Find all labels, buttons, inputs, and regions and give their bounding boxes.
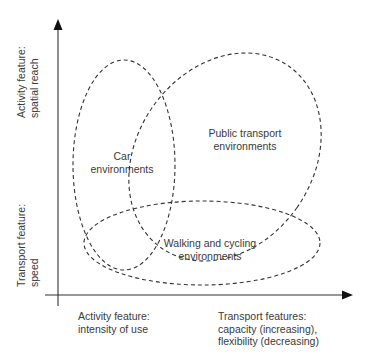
y-axis-upper-label-line1: Activity feature:	[15, 46, 28, 118]
y-axis-lower-label-line2: speed	[28, 204, 41, 287]
walking-cycling-label-line1: Walking and cycling	[150, 237, 270, 250]
walking-cycling-label: Walking and cycling environments	[150, 237, 270, 262]
walking-cycling-label-line2: environments	[150, 250, 270, 263]
x-axis-right-label: Transport features: capacity (increasing…	[218, 310, 319, 348]
x-axis-left-label-line1: Activity feature:	[78, 310, 150, 323]
x-axis-left-label-line2: intensity of use	[78, 323, 150, 336]
car-environments-label: Car environments	[77, 150, 167, 175]
public-transport-label-line1: Public transport	[190, 127, 300, 140]
x-axis-right-label-line2: capacity (increasing),	[218, 323, 319, 336]
y-axis-arrow-icon	[54, 19, 63, 30]
x-axis-arrow-icon	[342, 291, 353, 300]
x-axis-right-label-line3: flexibility (decreasing)	[218, 335, 319, 348]
x-axis-right-label-line1: Transport features:	[218, 310, 319, 323]
car-label-line1: Car	[77, 150, 167, 163]
y-axis-lower-label-line1: Transport feature:	[15, 204, 28, 287]
car-label-line2: environments	[77, 163, 167, 176]
y-axis-lower-label: Transport feature: speed	[15, 204, 40, 287]
x-axis-left-label: Activity feature: intensity of use	[78, 310, 150, 335]
public-transport-label-line2: environments	[190, 140, 300, 153]
y-axis-upper-label-line2: spatial reach	[28, 46, 41, 118]
y-axis-upper-label: Activity feature: spatial reach	[15, 46, 40, 118]
public-transport-label: Public transport environments	[190, 127, 300, 152]
diagram-canvas	[0, 0, 371, 363]
